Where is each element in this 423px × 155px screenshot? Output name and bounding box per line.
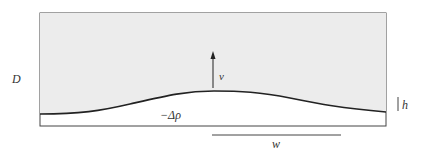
height-label: h xyxy=(402,98,408,113)
velocity-label: v xyxy=(219,70,224,82)
width-label: w xyxy=(272,137,280,152)
diagram-canvas xyxy=(0,0,423,155)
density-label: −Δρ xyxy=(160,108,181,123)
depth-label: D xyxy=(12,72,21,87)
